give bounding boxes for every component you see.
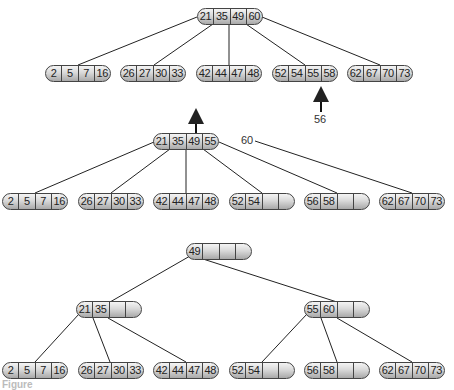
key-cell: 56: [305, 194, 320, 209]
key-cell: 27: [136, 66, 152, 81]
key-cell: [353, 194, 369, 209]
key-cell: 52: [273, 66, 288, 81]
stage3-internal-node: 21 35: [76, 301, 142, 318]
key-cell: 26: [121, 66, 136, 81]
key-cell: 27: [94, 363, 110, 378]
key-cell: 33: [127, 194, 143, 209]
key-cell: 52: [230, 194, 245, 209]
key-cell: 7: [78, 66, 94, 81]
key-cell: 21: [198, 9, 213, 24]
key-cell: 42: [154, 194, 169, 209]
key-cell: 47: [229, 66, 245, 81]
key-cell: 55: [202, 134, 218, 149]
stage3-leaf-node: 62 67 70 73: [379, 362, 445, 379]
key-cell: 44: [212, 66, 228, 81]
key-cell: 16: [51, 194, 67, 209]
key-cell: 44: [169, 363, 185, 378]
key-cell: 56: [305, 363, 320, 378]
key-cell: 70: [412, 194, 428, 209]
key-cell: 55: [305, 302, 320, 317]
key-cell: 54: [245, 194, 261, 209]
key-cell: [278, 363, 294, 378]
key-cell: 27: [94, 194, 110, 209]
stage1-leaf-node: 62 67 70 73: [347, 65, 413, 82]
key-cell: 73: [428, 194, 444, 209]
key-cell: 30: [111, 194, 127, 209]
key-cell: 42: [154, 363, 169, 378]
key-cell: 30: [111, 363, 127, 378]
key-cell: 7: [35, 363, 51, 378]
key-cell: 21: [77, 302, 92, 317]
stage1-leaf-node: 52 54 55 58: [272, 65, 338, 82]
stage2-leaf-node: 62 67 70 73: [379, 193, 445, 210]
stage3-leaf-node: 26 27 30 33: [78, 362, 144, 379]
key-cell: 58: [320, 363, 336, 378]
stage3-internal-node: 55 60: [304, 301, 370, 318]
stage1-leaf-node: 42 44 47 48: [196, 65, 262, 82]
stage1-leaf-node: 26 27 30 33: [120, 65, 186, 82]
key-cell: [235, 244, 251, 259]
key-cell: 47: [186, 363, 202, 378]
key-cell: 35: [169, 134, 185, 149]
stage3-root-node: 49: [186, 243, 252, 260]
key-cell: 55: [305, 66, 321, 81]
stage2-leaf-node: 52 54: [229, 193, 295, 210]
stage2-leaf-node: 56 58: [304, 193, 370, 210]
key-cell: 60: [246, 9, 262, 24]
key-cell: [353, 363, 369, 378]
key-cell: [219, 244, 235, 259]
key-cell: 30: [153, 66, 169, 81]
key-cell: 5: [18, 363, 34, 378]
key-cell: 33: [127, 363, 143, 378]
insert-key-label: 56: [314, 113, 326, 125]
stage1-root-node: 21 35 49 60: [197, 8, 263, 25]
key-cell: [337, 194, 353, 209]
key-cell: [125, 302, 141, 317]
key-cell: [262, 363, 278, 378]
key-cell: 70: [380, 66, 396, 81]
stage2-leaf-node: 42 44 47 48: [153, 193, 219, 210]
key-cell: [353, 302, 369, 317]
stage2-leaf-node: 2 5 7 16: [2, 193, 68, 210]
key-cell: 48: [202, 363, 218, 378]
key-cell: 58: [321, 66, 337, 81]
key-cell: [278, 194, 294, 209]
key-cell: 21: [154, 134, 169, 149]
key-cell: 58: [320, 194, 336, 209]
key-cell: 2: [3, 363, 18, 378]
key-cell: 47: [186, 194, 202, 209]
key-cell: 49: [187, 244, 202, 259]
key-cell: 26: [79, 363, 94, 378]
key-cell: [337, 302, 353, 317]
key-cell: 52: [230, 363, 245, 378]
key-cell: 2: [46, 66, 61, 81]
key-cell: 5: [18, 194, 34, 209]
key-cell: 67: [395, 194, 411, 209]
key-cell: 49: [186, 134, 202, 149]
stage2-root-node: 21 35 49 55: [153, 133, 219, 150]
stage3-leaf-node: 52 54: [229, 362, 295, 379]
key-cell: 60: [320, 302, 336, 317]
overflow-key-label: 60: [241, 134, 253, 146]
stage3-leaf-node: 56 58: [304, 362, 370, 379]
stage1-leaf-node: 2 5 7 16: [45, 65, 111, 82]
key-cell: 35: [92, 302, 108, 317]
stage3-leaf-node: 2 5 7 16: [2, 362, 68, 379]
key-cell: 48: [202, 194, 218, 209]
key-cell: 16: [94, 66, 110, 81]
key-cell: [109, 302, 125, 317]
key-cell: 33: [169, 66, 185, 81]
key-cell: 7: [35, 194, 51, 209]
key-cell: [202, 244, 218, 259]
key-cell: 62: [380, 194, 395, 209]
stage2-leaf-node: 26 27 30 33: [78, 193, 144, 210]
key-cell: 62: [380, 363, 395, 378]
key-cell: 26: [79, 194, 94, 209]
key-cell: [262, 194, 278, 209]
key-cell: 73: [428, 363, 444, 378]
key-cell: 16: [51, 363, 67, 378]
key-cell: 48: [245, 66, 261, 81]
figure-caption: Figure: [2, 379, 33, 390]
stage3-leaf-node: 42 44 47 48: [153, 362, 219, 379]
key-cell: 44: [169, 194, 185, 209]
